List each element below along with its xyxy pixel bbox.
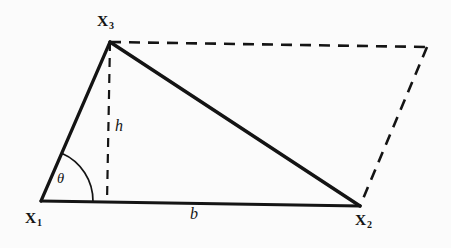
geometry-figure: X1 X2 X3 h b θ (0, 0, 451, 248)
triangle-base-edge (41, 201, 360, 206)
theta-angle-label: θ (57, 171, 64, 186)
vertex-label-x3-base: X (97, 12, 108, 29)
parallelogram-top-dashed-edge (110, 42, 427, 47)
height-dashed-line (107, 42, 110, 202)
triangle-left-edge (41, 42, 110, 201)
vertex-label-x3: X3 (97, 13, 114, 29)
geometry-canvas (0, 0, 451, 248)
base-length-label: b (190, 206, 198, 222)
height-label: h (115, 118, 123, 134)
vertex-label-x2-subscript: 2 (367, 219, 372, 230)
vertex-label-x1-base: X (25, 209, 36, 226)
angle-arc-group (62, 153, 93, 202)
vertex-label-x3-subscript: 3 (109, 20, 114, 31)
vertex-label-x2-base: X (355, 211, 366, 228)
dashed-construction-lines (107, 42, 427, 206)
vertex-label-x1: X1 (25, 210, 42, 226)
vertex-label-x2: X2 (355, 212, 372, 228)
vertex-label-x1-subscript: 1 (37, 217, 42, 228)
theta-angle-arc (62, 153, 93, 202)
triangle-hypotenuse-edge (110, 42, 360, 206)
parallelogram-right-dashed-edge (360, 47, 427, 206)
